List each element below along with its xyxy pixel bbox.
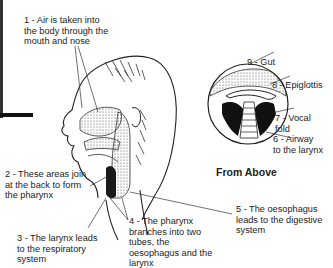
label-8-epiglottis: 8 - Epiglottis xyxy=(272,80,323,91)
label-3-larynx: 3 - The larynx leads to the respiratory … xyxy=(17,233,98,265)
label-7-vocal-fold: 7 - Vocal fold xyxy=(275,113,311,134)
label-2-pharynx-join: 2 - These areas join at the back to form… xyxy=(5,169,86,201)
label-1-air-intake: 1 - Air is taken into the body through t… xyxy=(24,15,108,47)
view-caption: From Above xyxy=(216,167,277,178)
label-9-gut: 9 - Gut xyxy=(247,57,275,68)
larynx-dark xyxy=(106,166,116,198)
label-6-airway: 6 - Airway to the larynx xyxy=(273,134,323,155)
label-4-pharynx-branches: 4 - The pharynx branches into two tubes,… xyxy=(129,216,212,268)
label-5-oesophagus: 5 - The oesophagus leads to the digestiv… xyxy=(236,204,322,236)
leader-lines xyxy=(75,46,232,228)
